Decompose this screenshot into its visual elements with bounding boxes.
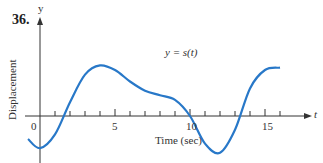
- x-axis-label: Time (sec): [155, 134, 202, 146]
- x-tick-5: 5: [112, 120, 118, 132]
- x-axis-name: t: [314, 108, 317, 120]
- y-axis-name: y: [38, 2, 44, 14]
- x-tick-0: 0: [31, 120, 37, 132]
- x-tick-15: 15: [262, 120, 273, 132]
- curve-s-of-t: [28, 65, 280, 153]
- x-ticks: [55, 109, 280, 116]
- x-tick-10: 10: [186, 120, 197, 132]
- y-axis-arrow-icon: [37, 17, 43, 25]
- y-axis-label: Displacement: [6, 50, 20, 120]
- curve-label: y = s(t): [165, 46, 197, 58]
- x-axis-arrow-icon: [304, 113, 312, 119]
- chart: 36. y t 0 5 10 15 Time (sec) y = s(t) Di…: [0, 0, 323, 163]
